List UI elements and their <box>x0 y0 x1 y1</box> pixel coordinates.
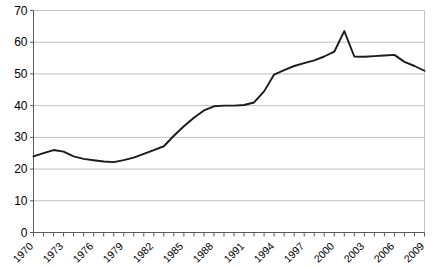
x-axis-ticks <box>34 233 425 237</box>
line-chart: 010203040506070 197019731976197919821985… <box>0 0 447 266</box>
y-tick-label: 40 <box>14 100 27 112</box>
y-tick-label: 10 <box>14 195 27 207</box>
y-tick-label: 50 <box>14 68 27 80</box>
data-series-line <box>34 31 425 162</box>
y-tick-label: 0 <box>21 227 28 239</box>
y-tick-label: 60 <box>14 36 27 48</box>
y-tick-label: 20 <box>14 163 27 175</box>
plot-frame <box>34 11 425 233</box>
series-line <box>34 31 425 162</box>
chart-plot-area <box>0 0 447 266</box>
y-tick-label: 70 <box>14 5 27 17</box>
y-axis-ticks <box>30 11 34 233</box>
y-tick-label: 30 <box>14 131 27 143</box>
